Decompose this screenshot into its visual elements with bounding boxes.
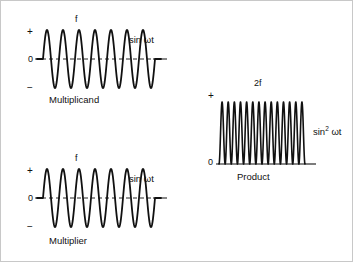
multiplier-axis-minus: −	[27, 222, 33, 232]
multiplicand-caption: Multiplicand	[49, 95, 99, 105]
panel-product: + 0 2f sin2 ωt Product	[201, 79, 353, 197]
multiplier-signal-label: sin ωt	[129, 174, 154, 184]
product-signal-exponent: 2	[325, 125, 329, 132]
product-axis-plus: +	[208, 91, 214, 101]
product-signal-prefix: sin	[313, 126, 325, 137]
panel-multiplicand: + 0 − f sin ωt Multiplicand	[1, 5, 191, 110]
multiplicand-axis-zero: 0	[28, 55, 33, 64]
multiplier-axis-plus: +	[27, 166, 33, 176]
multiplicand-axis-minus: −	[27, 83, 33, 93]
product-sine-squared-trace	[219, 102, 305, 164]
multiplier-caption: Multiplier	[49, 236, 87, 246]
panel-multiplier: + 0 − f sin ωt Multiplier	[1, 146, 191, 256]
product-axis-zero: 0	[208, 158, 213, 167]
multiplicand-signal-label: sin ωt	[129, 35, 154, 45]
multiplicand-waveform-plot	[35, 23, 195, 123]
product-signal-suffix: ωt	[331, 126, 341, 137]
product-caption: Product	[237, 172, 270, 182]
waveform-figure: + 0 − f sin ωt Multiplicand + 0 − f sin …	[0, 0, 353, 262]
product-waveform-plot	[216, 89, 326, 189]
multiplicand-axis-plus: +	[27, 27, 33, 37]
multiplier-axis-zero: 0	[28, 194, 33, 203]
multiplier-waveform-plot	[35, 162, 195, 262]
product-frequency-label: 2f	[254, 79, 262, 88]
product-signal-label: sin2 ωt	[313, 127, 341, 137]
